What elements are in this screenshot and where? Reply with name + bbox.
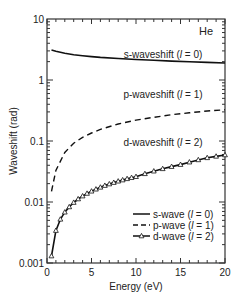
element-label: He: [199, 25, 213, 37]
y-tick-label: 10: [33, 14, 45, 25]
x-tick-label: 15: [175, 267, 187, 278]
curve-label: p-waveshift (l = 1): [123, 89, 202, 100]
x-tick-label: 20: [219, 267, 231, 278]
x-tick-label: 10: [130, 267, 142, 278]
y-tick-label: 0.1: [30, 136, 44, 147]
waveshift-chart: 051015200.0010.010.1110 He s-waveshift (…: [0, 0, 239, 306]
x-axis-label: Energy (eV): [109, 281, 162, 292]
chart-canvas: 051015200.0010.010.1110 He s-waveshift (…: [0, 0, 239, 306]
y-axis-label: Waveshift (rad): [8, 107, 19, 174]
legend: s-wave (l = 0)p-wave (l = 1)d-wave (l = …: [133, 209, 214, 242]
curve-labels: s-waveshift (l = 0)p-waveshift (l = 1)d-…: [123, 49, 202, 148]
legend-label: p-wave (l = 1): [153, 220, 214, 231]
x-tick-label: 5: [89, 267, 95, 278]
y-tick-label: 1: [38, 75, 44, 86]
triangle-marker: [54, 228, 59, 232]
x-tick-label: 0: [44, 267, 50, 278]
curve-label: d-waveshift (l = 2): [123, 137, 202, 148]
triangle-marker: [49, 253, 54, 257]
legend-label: d-wave (l = 2): [153, 231, 214, 242]
series-line: [52, 110, 226, 192]
y-tick-label: 0.01: [25, 197, 45, 208]
legend-label: s-wave (l = 0): [153, 209, 213, 220]
y-tick-label: 0.001: [19, 258, 44, 269]
curve-label: s-waveshift (l = 0): [124, 49, 203, 60]
